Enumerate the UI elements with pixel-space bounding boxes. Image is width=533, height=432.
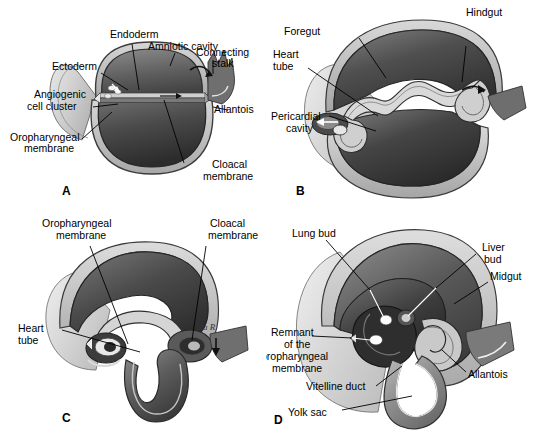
label-allantois: Allantois [214,103,254,115]
panel-b: Foregut Hindgut Heart tube Pericardial c… [266,0,533,216]
label-heart-tube-b-line2: tube [273,60,294,72]
label-midgut: Midgut [490,270,522,282]
label-cloacal-c-line2: membrane [208,229,258,241]
label-vitelline-duct: Vitelline duct [306,380,365,392]
label-remnant-line3: oropharyngeal [266,350,328,362]
panel-letter-b: B [296,184,305,198]
label-allantois-d: Allantois [468,368,508,380]
label-foregut: Foregut [284,25,320,37]
label-heart-tube-c-line2: tube [18,334,39,346]
lung-bud-shape [380,315,392,325]
label-liver-bud-line2: bud [484,253,502,265]
embryonic-disc-a [100,93,205,103]
label-cloacal-a-line2: membrane [203,170,253,182]
label-ectoderm: Ectoderm [52,60,97,72]
label-angiogenic-line1: Angiogenic [34,88,86,100]
panel-c: Oropharyngeal membrane Cloacal membrane … [0,210,267,432]
label-heart-tube-b-line1: Heart [273,48,299,60]
label-yolk-sac: Yolk sac [288,406,327,418]
label-pericardial-line1: Pericardial [271,110,321,122]
label-heart-tube-c-line1: Heart [18,322,44,334]
label-oropharyngeal-a-line2: membrane [24,142,74,154]
panel-d: Lung bud Liver bud Midgut Remnant of the… [266,210,533,432]
label-oropharyngeal-c-line1: Oropharyngeal [42,217,111,229]
label-oropharyngeal-c-line2: membrane [56,229,106,241]
label-remnant-line1: Remnant [271,326,314,338]
lung-bud-shape-2 [370,335,383,345]
label-lung-bud: Lung bud [292,227,336,239]
embryology-figure: Endoderm Amniotic cavity Ectoderm Connec… [0,0,533,432]
label-remnant-line2: of the [284,338,310,350]
panel-letter-a: A [62,184,71,198]
label-endoderm: Endoderm [110,28,159,40]
label-angiogenic-line2: cell cluster [27,100,77,112]
panel-letter-d: D [274,413,283,427]
label-remnant-line4: membrane [272,362,322,374]
panel-a: Endoderm Amniotic cavity Ectoderm Connec… [0,0,267,216]
panel-letter-c: C [62,411,71,425]
artist-signature: ala R [196,322,216,332]
label-hindgut: Hindgut [466,6,502,18]
yolk-sac-stalk-c [125,350,189,423]
heart-tube-shape-b [333,125,347,135]
label-cloacal-a-line1: Cloacal [212,158,247,170]
label-liver-bud-line1: Liver [482,241,505,253]
label-cloacal-c-line1: Cloacal [210,217,245,229]
yolk-sac-shape-a [91,100,213,174]
label-connecting-stalk-line2: stalk [212,57,234,69]
yolk-sac-shape-d [384,356,446,429]
label-pericardial-line2: cavity [286,122,314,134]
